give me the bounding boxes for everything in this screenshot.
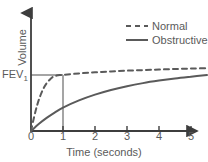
- x-tick-label-3: 3: [120, 131, 134, 142]
- x-tick-label-1: 1: [56, 131, 70, 142]
- fev1-subscript: 1: [23, 74, 27, 83]
- legend-label-normal: Normal: [152, 21, 187, 32]
- legend-label-obstructive: Obstructive: [152, 35, 208, 46]
- x-tick-label-5: 5: [184, 131, 198, 142]
- fev1-axis-label: FEV1: [2, 69, 28, 83]
- x-tick-label-2: 2: [88, 131, 102, 142]
- curve-obstructive: [31, 75, 207, 131]
- x-axis-title: Time (seconds): [0, 147, 208, 158]
- fev1-text: FEV: [2, 68, 23, 80]
- x-tick-label-4: 4: [152, 131, 166, 142]
- x-tick-label-0: 0: [24, 131, 38, 142]
- spirometry-chart: Volume FEV1 0 1 2 3 4 5 Time (seconds) N…: [0, 0, 208, 162]
